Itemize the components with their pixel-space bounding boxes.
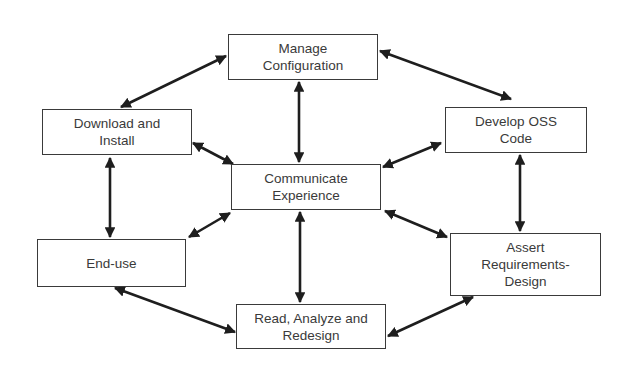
arrow-enduse-communicate (189, 213, 230, 237)
node-develop-oss-code: Develop OSS Code (445, 107, 587, 153)
arrow-enduse-read (115, 288, 235, 332)
node-communicate-experience: Communicate Experience (231, 164, 381, 210)
arrow-manage-develop (380, 51, 511, 99)
arrow-manage-download (121, 56, 226, 107)
node-end-use: End-use (37, 239, 186, 287)
node-assert-requirements-design: Assert Requirements- Design (450, 233, 601, 296)
arrow-develop-communicate (383, 143, 441, 167)
arrow-assert-read (388, 297, 473, 336)
arrow-download-communicate (193, 143, 233, 164)
node-download-and-install: Download and Install (42, 109, 192, 155)
arrow-assert-communicate (385, 211, 447, 237)
node-manage-configuration: Manage Configuration (228, 34, 378, 80)
node-read-analyze-redesign: Read, Analyze and Redesign (236, 304, 386, 349)
